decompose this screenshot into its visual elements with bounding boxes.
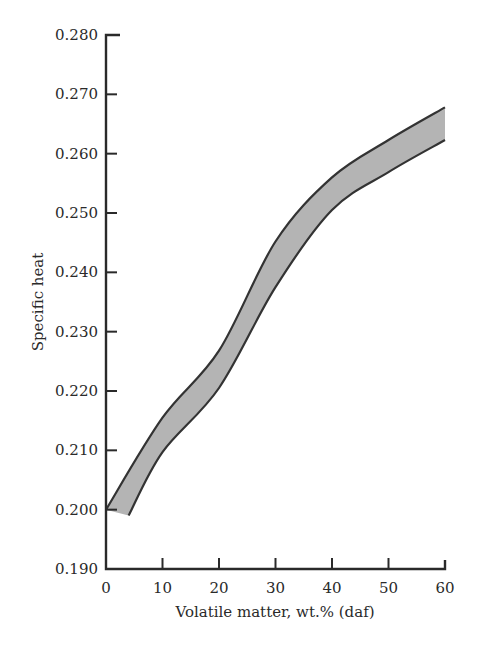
y-tick-label: 0.250: [55, 204, 98, 222]
x-axis-title: Volatile matter, wt.% (daf): [174, 603, 374, 621]
x-tick-label: 50: [379, 579, 398, 597]
x-axis-ticks: 0102030405060: [101, 558, 454, 597]
y-axis-title: Specific heat: [29, 253, 47, 352]
y-tick-label: 0.270: [55, 85, 98, 103]
y-tick-label: 0.230: [55, 323, 98, 341]
x-tick-label: 40: [322, 579, 341, 597]
x-tick-label: 60: [435, 579, 454, 597]
axes: [106, 35, 445, 569]
axis-frame: [106, 35, 445, 569]
y-axis-ticks: 0.1900.2000.2100.2200.2300.2400.2500.260…: [55, 26, 117, 578]
x-tick-label: 0: [101, 579, 111, 597]
x-tick-label: 20: [209, 579, 228, 597]
y-tick-label: 0.220: [55, 382, 98, 400]
y-tick-label: 0.260: [55, 145, 98, 163]
y-tick-label: 0.190: [55, 560, 98, 578]
y-tick-label: 0.280: [55, 26, 98, 44]
x-tick-label: 10: [153, 579, 172, 597]
y-tick-label: 0.210: [55, 441, 98, 459]
lower-bound-line: [129, 140, 445, 516]
specific-heat-band: [106, 107, 445, 515]
y-tick-label: 0.240: [55, 263, 98, 281]
y-tick-label: 0.200: [55, 501, 98, 519]
x-tick-label: 30: [266, 579, 285, 597]
specific-heat-chart: 0.1900.2000.2100.2200.2300.2400.2500.260…: [0, 0, 478, 650]
